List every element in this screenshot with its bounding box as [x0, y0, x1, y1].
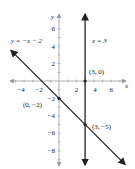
point-label-0-neg2: (0, −2) — [23, 101, 43, 109]
y-tick-label: 4 — [52, 43, 56, 51]
y-axis-label: y — [50, 13, 55, 21]
point-0-neg2 — [57, 97, 60, 100]
equation-label-vertical: x = 3 — [91, 37, 107, 45]
y-tick-label: 6 — [52, 25, 56, 33]
point-label-3-neg5: (3, −5) — [92, 123, 112, 131]
x-tick-label: −4 — [17, 86, 25, 94]
y-tick-label: −6 — [48, 129, 56, 137]
x-tick-label: 6 — [109, 86, 113, 94]
y-tick-label: 2 — [52, 60, 56, 68]
point-label-3-0: (3, 0) — [89, 68, 105, 76]
x-tick-label: −2 — [35, 86, 43, 94]
y-tick-label: −8 — [48, 147, 56, 155]
x-tick-label: 2 — [75, 86, 79, 94]
y-tick-label: −2 — [48, 95, 56, 103]
point-3-0 — [84, 79, 87, 82]
point-3-neg5 — [84, 123, 87, 126]
x-axis-label: x — [124, 82, 129, 90]
equation-label-line: y = −x − 2 — [10, 37, 42, 45]
graph-canvas: −4 −2 2 4 6 x 6 4 2 −2 −4 −6 −8 y y = −x… — [0, 0, 135, 169]
y-tick-label: −4 — [48, 112, 56, 120]
x-tick-label: 4 — [93, 86, 97, 94]
